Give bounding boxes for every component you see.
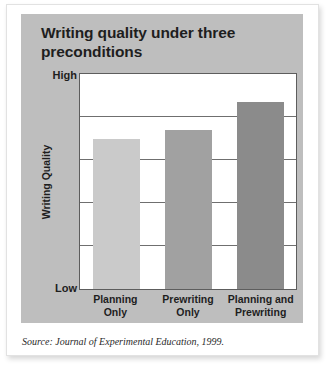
- bar-planning-and-prewriting: [237, 102, 284, 289]
- page-title: Writing quality under three precondition…: [41, 24, 286, 62]
- x-axis-label-line: Planning: [79, 293, 152, 306]
- chart-panel: Writing quality under three precondition…: [21, 14, 303, 323]
- figure-card: Writing quality under three precondition…: [6, 4, 319, 356]
- source-prefix: Source:: [22, 336, 53, 347]
- y-axis-tick-high: High: [29, 69, 77, 81]
- source-journal: Journal of Experimental Education: [55, 336, 196, 347]
- bar-prewriting-only: [165, 130, 212, 289]
- x-axis-label-line: Only: [152, 306, 225, 319]
- x-axis-label: PlanningOnly: [79, 293, 152, 319]
- bars-layer: [80, 74, 296, 289]
- x-axis-labels: PlanningOnlyPrewritingOnlyPlanning andPr…: [79, 293, 297, 319]
- y-axis-tick-low: Low: [29, 282, 77, 294]
- x-axis-label-line: Prewriting: [224, 306, 297, 319]
- x-axis-label-line: Only: [79, 306, 152, 319]
- y-axis-ticks: High Low Writing Quality: [21, 73, 77, 290]
- x-axis-label: PrewritingOnly: [152, 293, 225, 319]
- plot-area: [79, 73, 297, 290]
- bar-planning-only: [93, 139, 140, 290]
- y-axis-title: Writing Quality: [40, 127, 52, 237]
- x-axis-label-line: Planning and: [224, 293, 297, 306]
- source-year: , 1999.: [197, 336, 225, 347]
- x-axis-label: Planning andPrewriting: [224, 293, 297, 319]
- x-axis-label-line: Prewriting: [152, 293, 225, 306]
- source-note: Source: Journal of Experimental Educatio…: [22, 336, 306, 347]
